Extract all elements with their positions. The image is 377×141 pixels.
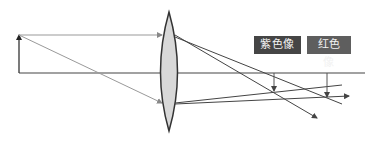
incident-rays	[19, 35, 162, 103]
purple-image-label: 紫色像	[254, 36, 301, 54]
biconvex-lens	[161, 12, 178, 131]
optics-diagram	[0, 0, 377, 141]
object-arrow	[16, 34, 22, 73]
red-image-label: 红色像	[307, 36, 351, 54]
